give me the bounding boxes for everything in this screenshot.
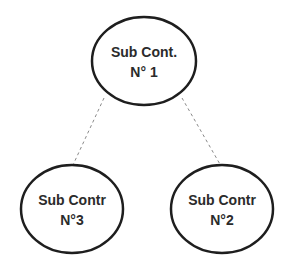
- node-sub-contr-3: Sub Contr N°3: [21, 165, 123, 253]
- node-sub-cont-1: Sub Cont. N° 1: [92, 17, 196, 105]
- connector-n1-n3: [73, 98, 104, 165]
- node-2-number: N°2: [210, 212, 234, 228]
- connector-n1-n2: [182, 98, 221, 166]
- org-diagram: Sub Cont. N° 1 Sub Contr N°3 Sub Contr N…: [0, 0, 292, 261]
- node-3-number: N°3: [60, 212, 84, 228]
- node-1-title: Sub Cont.: [111, 44, 177, 60]
- node-sub-contr-2: Sub Contr N°2: [171, 165, 273, 253]
- node-2-title: Sub Contr: [188, 192, 256, 208]
- node-3-title: Sub Contr: [38, 192, 106, 208]
- node-1-number: N° 1: [130, 64, 158, 80]
